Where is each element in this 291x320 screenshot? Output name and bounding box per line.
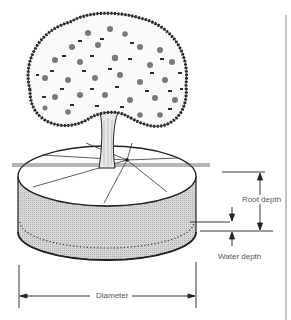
diameter-label: Diameter (93, 291, 131, 300)
root-depth-label: Root depth (241, 195, 282, 204)
diameter-dimension (19, 262, 196, 308)
root-zone-diagram (0, 0, 291, 320)
tree-canopy (28, 13, 186, 126)
water-depth-label: Water depth (218, 252, 261, 261)
water-depth-dimension (190, 207, 235, 246)
root-center-point (125, 158, 129, 162)
